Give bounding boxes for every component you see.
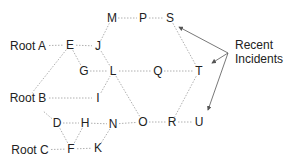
node-p: P xyxy=(139,12,147,24)
annotation-label: Recent Incidents xyxy=(235,38,283,66)
edge-e-j xyxy=(76,45,92,46)
node-f: F xyxy=(67,143,74,155)
annotation-arrow-3 xyxy=(208,53,228,110)
annotation-line-2: Incidents xyxy=(235,52,283,66)
edge-f-k xyxy=(77,148,92,149)
node-rootb: Root B xyxy=(10,92,47,104)
edge-j-l xyxy=(101,51,110,66)
edge-rootb-d xyxy=(44,112,53,119)
node-e: E xyxy=(66,39,74,51)
node-h: H xyxy=(81,117,90,129)
annotation-arrow-2 xyxy=(212,53,228,63)
node-o: O xyxy=(138,116,147,128)
node-u: U xyxy=(195,116,204,128)
node-g: G xyxy=(79,65,88,77)
edge-i-l xyxy=(101,76,110,93)
node-rootc: Root C xyxy=(11,144,48,156)
node-m: M xyxy=(107,12,117,24)
node-d: D xyxy=(53,117,62,129)
edge-e-rootb xyxy=(32,50,66,93)
edge-n-o xyxy=(119,122,137,123)
node-r: R xyxy=(168,116,177,128)
diagram-canvas: Root AEJMPSGLQTRoot BIDHNORURoot CFK Rec… xyxy=(0,0,291,166)
node-l: L xyxy=(110,65,117,77)
edge-j-m xyxy=(101,23,110,40)
edge-h-f xyxy=(74,128,82,143)
node-q: Q xyxy=(153,65,162,77)
node-i: I xyxy=(96,92,99,104)
edge-t-r xyxy=(175,76,196,116)
node-s: S xyxy=(166,12,174,24)
node-t: T xyxy=(195,65,202,77)
node-k: K xyxy=(94,142,102,154)
edge-l-o xyxy=(116,76,140,117)
node-j: J xyxy=(95,40,101,52)
edge-k-n xyxy=(101,129,110,143)
edge-h-n xyxy=(91,123,107,124)
annotation-line-1: Recent xyxy=(235,38,283,52)
annotation-arrow-1 xyxy=(179,27,228,53)
node-n: N xyxy=(109,118,118,130)
node-roota: Root A xyxy=(10,40,46,52)
